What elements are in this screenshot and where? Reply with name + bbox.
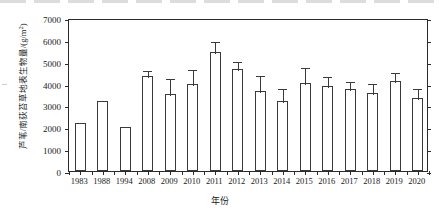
plot-area: 01000200030004000500060007000 [68, 19, 428, 172]
error-bar-cap-2009 [166, 79, 175, 80]
x-axis-tick [92, 171, 93, 175]
bar-2018 [367, 93, 378, 171]
error-bar-2019 [395, 73, 396, 83]
y-axis-tick-right [427, 107, 431, 108]
y-axis-tick-label: 0 [57, 168, 62, 179]
error-bar-2018 [373, 84, 374, 95]
error-bar-cap-2020 [413, 89, 422, 90]
y-axis-tick-right [427, 64, 431, 65]
x-axis-tick [114, 171, 115, 175]
x-axis-minor-tick [80, 172, 81, 175]
x-axis-tick [182, 171, 183, 175]
y-axis-label: 芦苇/南荻苔草地表生物量/(g/m2) [16, 2, 29, 170]
bar-2010 [187, 84, 198, 171]
x-axis-minor-tick [373, 172, 374, 175]
bar-2020 [412, 98, 423, 171]
x-axis-minor-tick [125, 172, 126, 175]
y-axis-tick: 1000 [65, 151, 69, 152]
error-bar-2016 [328, 77, 329, 89]
error-bar-cap-2008 [143, 71, 152, 72]
x-axis-category-label: 2020 [403, 176, 431, 186]
x-axis-tick [317, 171, 318, 175]
bar-2013 [255, 91, 266, 171]
bar-2011 [210, 52, 221, 171]
x-axis-minor-tick [260, 172, 261, 175]
x-axis-minor-tick [350, 172, 351, 175]
x-axis-tick [159, 171, 160, 175]
x-axis-minor-tick [418, 172, 419, 175]
error-bar-2015 [305, 68, 306, 85]
x-axis-tick [272, 171, 273, 175]
scan-artifact [0, 0, 439, 3]
y-axis-tick: 7000 [65, 20, 69, 21]
y-axis-tick: 3000 [65, 107, 69, 108]
y-axis-tick-right [427, 151, 431, 152]
error-bar-2009 [170, 79, 171, 96]
y-axis-tick: 4000 [65, 86, 69, 87]
x-axis-minor-tick [103, 172, 104, 175]
y-axis-tick: 2000 [65, 129, 69, 130]
error-bar-2012 [238, 62, 239, 71]
y-axis-tick-label: 5000 [43, 59, 61, 70]
bar-1988 [97, 101, 108, 171]
x-axis-tick-end [429, 171, 430, 175]
x-axis-tick [362, 171, 363, 175]
chart-figure: 芦苇/南荻苔草地表生物量/(g/m2) 01000200030004000500… [0, 0, 439, 213]
error-bar-cap-2016 [323, 77, 332, 78]
y-axis-tick-label: 4000 [43, 81, 61, 92]
error-bar-2011 [215, 42, 216, 54]
x-axis-minor-tick [238, 172, 239, 175]
error-bar-cap-2013 [256, 76, 265, 77]
x-axis-minor-tick [305, 172, 306, 175]
error-bar-cap-2017 [346, 82, 355, 83]
error-bar-cap-2010 [188, 70, 197, 71]
x-axis-minor-tick [215, 172, 216, 175]
x-axis-tick [137, 171, 138, 175]
scan-artifact-left [2, 84, 7, 85]
y-axis-tick-label: 7000 [43, 15, 61, 26]
bar-2012 [232, 69, 243, 171]
y-axis-tick-label: 2000 [43, 124, 61, 135]
y-axis-tick-right [427, 86, 431, 87]
y-axis-tick-label: 6000 [43, 37, 61, 48]
y-axis-tick-label: 1000 [43, 146, 61, 157]
error-bar-cap-2015 [301, 68, 310, 69]
x-axis-minor-tick [193, 172, 194, 175]
x-axis-tick [249, 171, 250, 175]
bar-1994 [120, 127, 131, 171]
error-bar-2020 [418, 89, 419, 100]
error-bar-2017 [350, 82, 351, 91]
error-bar-cap-2018 [368, 84, 377, 85]
x-axis-minor-tick [395, 172, 396, 175]
x-axis-tick [294, 171, 295, 175]
bar-2016 [322, 86, 333, 171]
x-axis-tick [407, 171, 408, 175]
y-axis-tick: 5000 [65, 64, 69, 65]
y-axis-tick-right [427, 42, 431, 43]
error-bar-2010 [193, 70, 194, 86]
bar-2017 [345, 89, 356, 171]
bar-2008 [142, 76, 153, 171]
bar-2014 [277, 101, 288, 171]
y-axis-label-tail: ) [18, 23, 28, 26]
x-axis-tick [69, 171, 70, 175]
y-axis-tick-right [427, 20, 431, 21]
bar-2019 [390, 81, 401, 171]
x-axis-tick [339, 171, 340, 175]
error-bar-2014 [283, 89, 284, 103]
x-axis-tick [384, 171, 385, 175]
x-axis-minor-tick [148, 172, 149, 175]
bar-2015 [300, 83, 311, 171]
error-bar-2008 [148, 71, 149, 78]
y-axis-label-text: 芦苇/南荻苔草地表生物量/(g/m [18, 30, 28, 150]
error-bar-cap-2012 [233, 62, 242, 63]
bar-2009 [165, 94, 176, 171]
error-bar-cap-2011 [211, 42, 220, 43]
bar-1983 [75, 123, 86, 171]
x-axis-minor-tick [283, 172, 284, 175]
x-axis-minor-tick [328, 172, 329, 175]
x-axis-minor-tick [170, 172, 171, 175]
error-bar-cap-2014 [278, 89, 287, 90]
y-axis-label-superscript: 2 [17, 26, 24, 29]
y-axis-tick-right [427, 129, 431, 130]
